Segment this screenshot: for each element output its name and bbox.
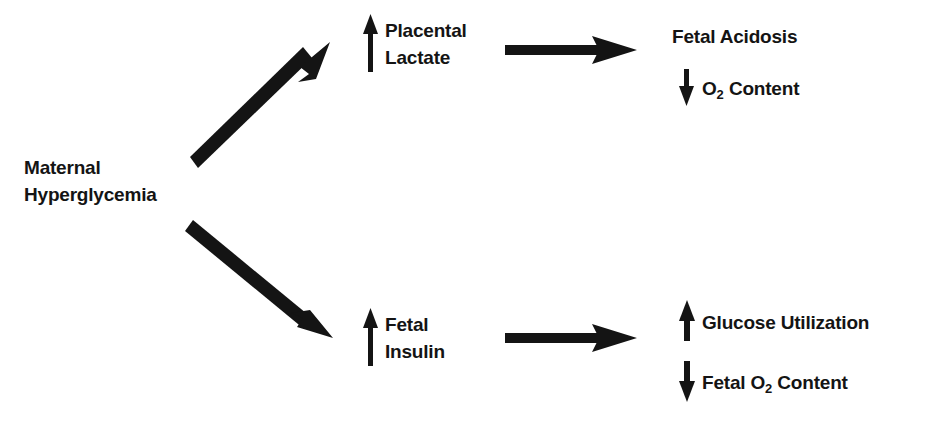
node-maternal-hyperglycemia: Maternal Hyperglycemia (24, 154, 157, 208)
node-label-line-2: Insulin (385, 338, 445, 365)
connector-placental-lactate-to-fetal-acidosis (505, 36, 637, 64)
node-label-line-2: Hyperglycemia (24, 181, 157, 208)
connector-source-to-fetal-insulin (185, 220, 333, 338)
node-label-suffix: Content (724, 78, 799, 99)
node-fetal-o2-content: Fetal O2 Content (702, 369, 848, 398)
node-label-line-1: Maternal (24, 154, 157, 181)
node-label-line-1: O2 Content (702, 75, 799, 104)
node-fetal-insulin: Fetal Insulin (385, 311, 445, 365)
node-label-line-1: Fetal Acidosis (672, 23, 797, 50)
node-label-subscript: 2 (765, 381, 772, 396)
up-arrow-icon-glucose-utilization (679, 300, 695, 341)
connector-layer (0, 0, 947, 424)
node-fetal-acidosis: Fetal Acidosis (672, 23, 797, 50)
down-arrow-icon-o2-content (679, 69, 694, 106)
flowchart-diagram: Maternal Hyperglycemia Placental Lactate… (0, 0, 947, 424)
node-label-suffix: Content (772, 372, 847, 393)
up-arrow-icon-placental-lactate (363, 14, 378, 72)
node-label-line-1: Fetal O2 Content (702, 369, 848, 398)
node-label-line-2: Lactate (385, 44, 467, 71)
node-glucose-utilization: Glucose Utilization (702, 309, 869, 336)
connector-fetal-insulin-to-glucose-utilization (505, 324, 637, 352)
node-label-subscript: 2 (717, 87, 724, 102)
node-o2-content: O2 Content (702, 75, 799, 104)
down-arrow-icon-fetal-o2-content (679, 361, 695, 402)
up-arrow-icon-fetal-insulin (363, 308, 378, 366)
node-placental-lactate: Placental Lactate (385, 17, 467, 71)
node-label-prefix: O (702, 78, 717, 99)
node-label-line-1: Fetal (385, 311, 445, 338)
node-label-line-1: Placental (385, 17, 467, 44)
connector-source-to-placental-lactate (190, 42, 330, 168)
node-label-prefix: Fetal O (702, 372, 765, 393)
node-label-line-1: Glucose Utilization (702, 309, 869, 336)
